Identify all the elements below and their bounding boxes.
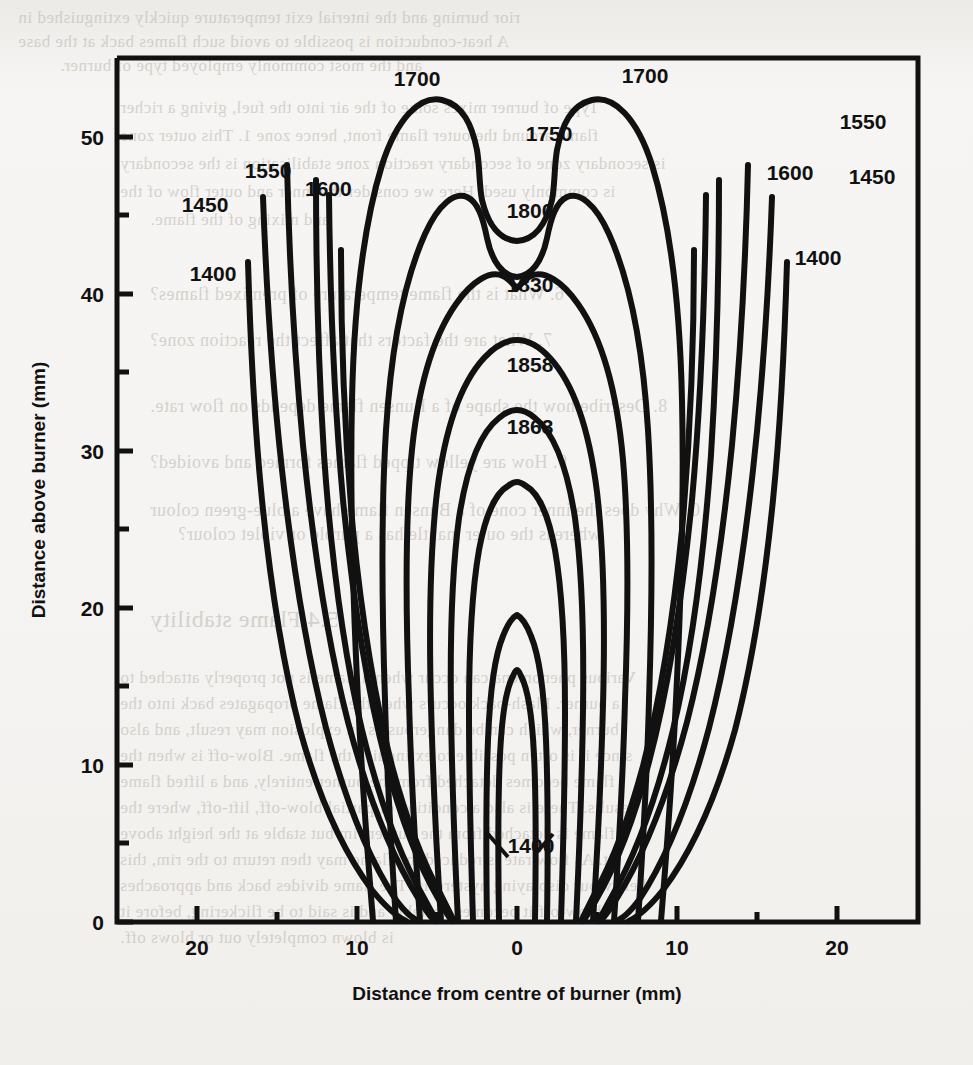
y-tick-label: 30 — [81, 440, 104, 463]
x-tick-label: 20 — [185, 936, 208, 959]
x-tick-label: 10 — [665, 936, 688, 959]
contour-label-1700-top-right: 1700 — [622, 64, 669, 87]
contour-plot-svg: 20 10 0 10 20 0 10 30 20 40 50 Distance … — [0, 0, 973, 1065]
contour-label-1600-right: 1600 — [767, 161, 814, 184]
y-tick-labels: 0 10 30 20 40 50 — [81, 126, 104, 934]
y-axis-label: Distance above burner (mm) — [28, 362, 49, 619]
contour-label-1550-right: 1550 — [840, 110, 887, 133]
contour-chart-figure: 20 10 0 10 20 0 10 30 20 40 50 Distance … — [0, 0, 973, 1065]
contour-label-1800: 1800 — [507, 199, 554, 222]
x-tick-label: 20 — [825, 936, 848, 959]
contour-label-1400-left: 1400 — [190, 262, 237, 285]
x-axis-label: Distance from centre of burner (mm) — [352, 983, 681, 1004]
y-tick-label: 50 — [81, 126, 104, 149]
x-tick-label: 10 — [345, 936, 368, 959]
contour-curves — [248, 99, 787, 921]
y-tick-label: 40 — [81, 283, 104, 306]
contour-label-1858: 1858 — [507, 353, 554, 376]
x-tick-label: 0 — [511, 936, 523, 959]
plot-frame — [117, 58, 918, 922]
contour-label-1400-right: 1400 — [795, 246, 842, 269]
contour-label-1550-left: 1550 — [245, 159, 292, 182]
contour-label-1400-bottom: 1400 — [508, 834, 555, 857]
x-tick-labels: 20 10 0 10 20 — [185, 936, 848, 959]
y-tick-label: 20 — [81, 597, 104, 620]
contour-label-1450-right: 1450 — [849, 165, 896, 188]
y-tick-label: 0 — [92, 911, 104, 934]
contour-label-1830: 1830 — [507, 273, 554, 296]
contour-label-1750: 1750 — [526, 122, 573, 145]
contour-label-1863: 1863 — [507, 415, 554, 438]
contour-core-spike — [498, 670, 535, 921]
y-tick-label: 10 — [81, 754, 104, 777]
contour-label-1700-top-left: 1700 — [394, 67, 441, 90]
contour-label-1450-left: 1450 — [182, 193, 229, 216]
contour-1750-envelope — [383, 196, 652, 921]
contour-label-1600-left: 1600 — [305, 177, 352, 200]
